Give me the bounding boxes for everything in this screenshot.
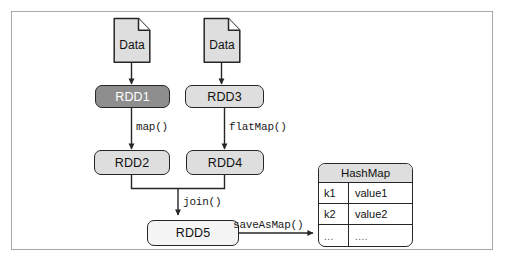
edge-label-map: map() (136, 121, 168, 133)
node-rdd5[interactable]: RDD5 (147, 220, 239, 246)
edge-label-join: join() (183, 196, 221, 208)
hashmap-value: value1 (349, 183, 412, 203)
hashmap-value: value2 (349, 204, 412, 224)
data-source-label-1: Data (112, 38, 152, 52)
edge-join-to-rdd5 (132, 175, 225, 215)
hashmap-key: ... (319, 225, 349, 247)
hashmap-key: k1 (319, 183, 349, 203)
edge-label-saveasmap: saveAsMap() (233, 219, 303, 231)
node-rdd1[interactable]: RDD1 (95, 85, 170, 108)
hashmap-title: HashMap (319, 164, 412, 183)
data-source-label-2: Data (202, 38, 242, 52)
diagram-canvas: Data Data RDD1 RDD3 RDD2 RDD4 RDD5 map()… (0, 0, 506, 263)
hashmap-table[interactable]: HashMap k1 value1 k2 value2 ... .... (318, 163, 413, 247)
hashmap-key: k2 (319, 204, 349, 224)
edge-label-flatmap: flatMap() (229, 121, 287, 133)
hashmap-row: ... .... (319, 225, 412, 247)
node-rdd4[interactable]: RDD4 (186, 150, 264, 175)
hashmap-row: k2 value2 (319, 204, 412, 225)
hashmap-value: .... (349, 225, 412, 247)
hashmap-row: k1 value1 (319, 183, 412, 204)
node-rdd2[interactable]: RDD2 (94, 150, 170, 175)
node-rdd3[interactable]: RDD3 (185, 85, 264, 108)
